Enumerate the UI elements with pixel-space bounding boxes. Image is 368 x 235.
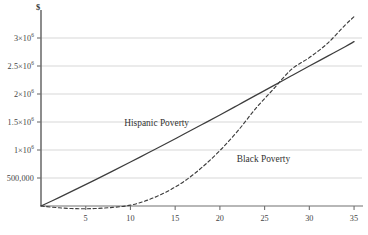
x-axis-ticks — [86, 206, 354, 210]
y-axis-tick-label: 500,000 — [0, 174, 34, 183]
x-axis-tick-label: 35 — [350, 214, 358, 223]
y-axis-tick-label: 1.5×106 — [0, 118, 34, 127]
x-axis-tick-label: 5 — [84, 214, 88, 223]
data-series — [41, 17, 354, 209]
x-axis-tick-label: 25 — [260, 214, 268, 223]
gridlines — [41, 38, 362, 178]
x-axis-tick-label: 20 — [216, 214, 224, 223]
axes — [41, 10, 363, 206]
series-label-black-poverty: Black Poverty — [237, 154, 290, 164]
y-axis-tick-label: 2×106 — [0, 90, 34, 99]
y-axis-tick-label: 1×106 — [0, 146, 34, 155]
y-axis-tick-label: 2.5×106 — [0, 62, 34, 71]
poverty-line-chart: $ 500,0001×1061.5×1062×1062.5×1063×106 5… — [0, 0, 368, 235]
series-line-black-poverty — [41, 17, 354, 209]
y-axis-currency-label: $ — [36, 2, 40, 12]
x-axis-tick-label: 30 — [305, 214, 313, 223]
series-label-hispanic-poverty: Hispanic Poverty — [124, 118, 189, 128]
x-axis-tick-label: 10 — [126, 214, 134, 223]
y-axis-tick-label: 3×106 — [0, 34, 34, 43]
x-axis-tick-label: 15 — [171, 214, 179, 223]
